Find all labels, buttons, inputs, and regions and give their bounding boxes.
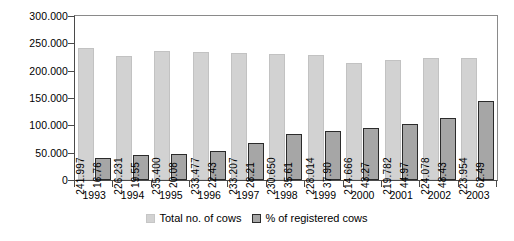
x-tick-mark	[74, 181, 75, 187]
bar-total-no-of-cows[interactable]: 233.207	[231, 53, 247, 180]
x-tick-mark	[343, 181, 344, 187]
bar-pct-registered-cows[interactable]: 43.27	[363, 128, 379, 180]
bar-pct-registered-cows[interactable]: 20.08	[171, 154, 187, 180]
legend-swatch-pct-icon	[252, 214, 261, 223]
x-tick-label: 1994	[113, 189, 151, 201]
bar-pct-registered-cows[interactable]: 16.76	[95, 158, 111, 180]
x-axis-ticks	[74, 181, 498, 188]
bar-pct-registered-cows[interactable]: 35.61	[286, 134, 302, 180]
legend: Total no. of cows % of registered cows	[0, 212, 514, 224]
x-tick-label: 1995	[152, 189, 190, 201]
bar-group: 241.99716.76	[75, 16, 113, 180]
bar-pct-registered-cows[interactable]: 22.43	[210, 151, 226, 180]
bar-pct-registered-cows[interactable]: 37.90	[325, 131, 341, 180]
y-tick-label: 200.000	[29, 65, 68, 77]
bar-group: 233.47722.43	[190, 16, 228, 180]
x-tick-label: 1998	[267, 189, 305, 201]
bar-group: 214.66643.27	[344, 16, 382, 180]
y-axis: 050.000100.000150.000200.000250.000300.0…	[0, 15, 68, 181]
x-tick-mark	[112, 181, 113, 187]
x-tick-label: 1999	[305, 189, 343, 201]
legend-item-total[interactable]: Total no. of cows	[146, 212, 241, 224]
legend-swatch-total-icon	[146, 214, 155, 223]
x-tick-label: 1996	[190, 189, 228, 201]
bar-group: 224.07848.43	[420, 16, 458, 180]
bar-total-no-of-cows[interactable]: 233.477	[193, 52, 209, 180]
x-tick-mark	[496, 181, 497, 187]
bar-group: 219.78244.97	[382, 16, 420, 180]
x-tick-label: 2000	[344, 189, 382, 201]
bar-group: 235.40020.08	[152, 16, 190, 180]
legend-label-total: Total no. of cows	[159, 212, 241, 224]
bar-group: 226.23119.55	[113, 16, 151, 180]
bar-chart: 050.000100.000150.000200.000250.000300.0…	[0, 0, 514, 241]
x-tick-mark	[266, 181, 267, 187]
y-tick-label: 300.000	[29, 10, 68, 22]
bar-pct-registered-cows[interactable]: 28.21	[248, 143, 264, 180]
bar-pct-registered-cows[interactable]: 19.55	[133, 155, 149, 180]
bar-group: 230.65035.61	[267, 16, 305, 180]
bar-group: 223.95462.49	[459, 16, 497, 180]
bar-group: 233.20728.21	[228, 16, 266, 180]
x-tick-mark	[458, 181, 459, 187]
x-tick-mark	[381, 181, 382, 187]
x-tick-mark	[304, 181, 305, 187]
bar-pct-registered-cows[interactable]: 44.97	[402, 124, 418, 180]
y-tick-label: 150.000	[29, 92, 68, 104]
bars-layer: 241.99716.76226.23119.55235.40020.08233.…	[75, 16, 497, 180]
x-tick-label: 2001	[382, 189, 420, 201]
bar-group: 228.01437.90	[305, 16, 343, 180]
bar-pct-registered-cows[interactable]: 48.43	[440, 118, 456, 180]
legend-label-pct: % of registered cows	[265, 212, 367, 224]
y-tick-label: 100.000	[29, 119, 68, 131]
x-tick-label: 2003	[459, 189, 497, 201]
bar-total-no-of-cows[interactable]: 241.997	[78, 48, 94, 180]
bar-total-no-of-cows[interactable]: 235.400	[154, 51, 170, 180]
y-tick-label: 250.000	[29, 37, 68, 49]
x-tick-mark	[419, 181, 420, 187]
x-tick-label: 2002	[420, 189, 458, 201]
x-tick-mark	[151, 181, 152, 187]
legend-item-pct[interactable]: % of registered cows	[252, 212, 367, 224]
bar-pct-registered-cows[interactable]: 62.49	[478, 101, 494, 180]
x-tick-mark	[189, 181, 190, 187]
x-tick-mark	[227, 181, 228, 187]
x-axis-labels: 1993199419951996199719981999200020012002…	[75, 189, 497, 205]
x-tick-label: 1993	[75, 189, 113, 201]
y-tick-label: 50.000	[35, 147, 68, 159]
x-tick-label: 1997	[228, 189, 266, 201]
